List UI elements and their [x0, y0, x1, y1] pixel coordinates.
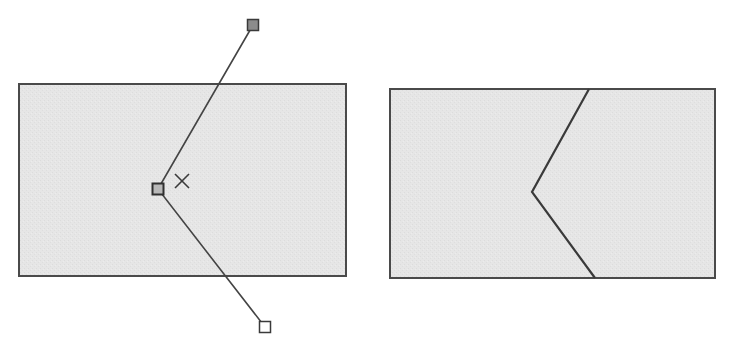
figure-caption [0, 354, 730, 361]
result-rectangle[interactable] [390, 89, 715, 278]
diagram-canvas [0, 0, 730, 361]
path-node-middle-handle-selected[interactable] [153, 184, 164, 195]
path-node-top-handle[interactable] [248, 20, 259, 31]
path-node-bottom-handle[interactable] [260, 322, 271, 333]
after-panel [390, 89, 715, 278]
before-panel [19, 20, 346, 333]
